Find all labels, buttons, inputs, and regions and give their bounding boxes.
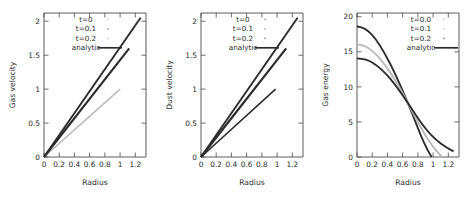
x-axis-title: Radius [239,178,265,187]
plot-dust-velocity: 0 0.2 0.4 0.6 0.8 1 1.2 0 0.5 1 1.5 2 Ra… [157,0,314,199]
x-tick-label: 0.2 [53,160,65,169]
legend-marker-t02-icon [264,38,266,40]
legend: t=0 t=0.1 t=0.2 analytic [72,15,122,52]
legend-marker-t00-icon [443,19,445,21]
legend-label-t0: t=0 [79,15,93,24]
y-tick-label: 2 [192,17,197,26]
x-tick-label: 0.8 [99,160,111,169]
y-tick-labels: 0 0.5 1 1.5 2 [28,17,40,162]
x-tick-labels: 0 0.2 0.4 0.6 0.8 1 1.2 [42,160,142,169]
x-tick-label: 1.2 [286,160,298,169]
x-tick-label: 0 [198,160,203,169]
y-tick-label: 0.5 [28,119,40,128]
legend: t=0 t=0.1 t=0.2 analytic [228,15,278,52]
x-tick-label: 0 [42,160,47,169]
legend-marker-t01-icon [107,28,109,30]
x-tick-label: 0.4 [69,160,81,169]
legend-marker-t01-icon [264,28,266,30]
y-tick-label: 1.5 [28,51,40,60]
x-tick-label: 0.2 [210,160,222,169]
legend-marker-t0-icon [264,19,266,21]
series-line-t01 [201,48,286,157]
x-tick-label: 1.2 [129,160,141,169]
y-tick-label: 0 [192,153,197,162]
legend-label-t02: t=0.2 [76,34,96,43]
legend-marker-t02-icon [107,38,109,40]
legend-label-t02: t=0.2 [232,34,252,43]
x-tick-label: 0 [355,160,360,169]
legend-label-t01: t=0.1 [232,24,252,33]
legend-label-t02: t=0.2 [411,34,431,43]
x-tick-label: 0.8 [412,160,424,169]
y-tick-label: 1.5 [185,51,197,60]
y-tick-label: 15 [344,47,354,56]
y-tick-label: 0 [35,153,40,162]
legend-label-analytic: analytic [228,43,256,52]
x-tick-label: 0.6 [84,160,96,169]
legend: t=0.0 t=0.1 t=0.2 analytic [407,15,458,52]
legend-label-t00: t=0.0 [411,15,432,24]
x-tick-label: 0.2 [367,160,379,169]
panel-gas-energy: 0 0.2 0.4 0.6 0.8 1 1.2 0 5 10 15 20 Rad… [313,0,470,199]
y-axis-title: Gas energy [321,63,330,107]
legend-marker-t01-icon [443,28,445,30]
x-tick-label: 1 [431,160,436,169]
legend-label-t01: t=0.1 [76,24,96,33]
figure-three-panel: 0 0.2 0.4 0.6 0.8 1 1.2 0 0.5 1 1.5 2 Ra… [0,0,470,199]
y-tick-label: 20 [344,12,354,21]
x-tick-label: 0.8 [256,160,268,169]
y-tick-label: 10 [344,83,354,92]
y-tick-label: 0.5 [185,119,197,128]
series-curve-t02 [357,58,454,151]
x-tick-label: 1 [274,160,279,169]
legend-marker-t0-icon [107,19,109,21]
series-line-t0 [201,89,276,157]
x-tick-label: 0.6 [240,160,252,169]
plot-gas-velocity: 0 0.2 0.4 0.6 0.8 1 1.2 0 0.5 1 1.5 2 Ra… [0,0,157,199]
y-tick-labels: 0 0.5 1 1.5 2 [185,17,197,162]
series-line-t0 [44,89,120,157]
x-tick-labels: 0 0.2 0.4 0.6 0.8 1 1.2 [355,160,455,169]
x-tick-label: 0.4 [225,160,237,169]
x-tick-label: 1 [118,160,123,169]
x-tick-labels: 0 0.2 0.4 0.6 0.8 1 1.2 [198,160,298,169]
legend-marker-t02-icon [443,38,445,40]
x-tick-label: 1.2 [443,160,455,169]
x-axis-title: Radius [395,178,421,187]
series-line-t01 [44,48,129,157]
panel-gas-velocity: 0 0.2 0.4 0.6 0.8 1 1.2 0 0.5 1 1.5 2 Ra… [0,0,157,199]
legend-label-analytic: analytic [407,43,435,52]
y-tick-label: 1 [192,85,197,94]
plot-gas-energy: 0 0.2 0.4 0.6 0.8 1 1.2 0 5 10 15 20 Rad… [313,0,470,199]
y-tick-label: 1 [35,85,40,94]
data-series-group [357,27,454,158]
y-tick-label: 5 [348,118,353,127]
panel-dust-velocity: 0 0.2 0.4 0.6 0.8 1 1.2 0 0.5 1 1.5 2 Ra… [157,0,314,199]
legend-label-t01: t=0.1 [411,24,431,33]
y-axis-title: Dust velocity [165,60,174,110]
x-axis-title: Radius [82,178,108,187]
x-tick-label: 0.6 [397,160,409,169]
y-tick-labels: 0 5 10 15 20 [344,12,354,161]
y-tick-label: 0 [348,153,353,162]
y-tick-label: 2 [35,17,40,26]
legend-label-t0: t=0 [236,15,250,24]
y-axis-title: Gas velocity [8,61,17,108]
legend-label-analytic: analytic [72,43,100,52]
x-tick-label: 0.4 [382,160,394,169]
